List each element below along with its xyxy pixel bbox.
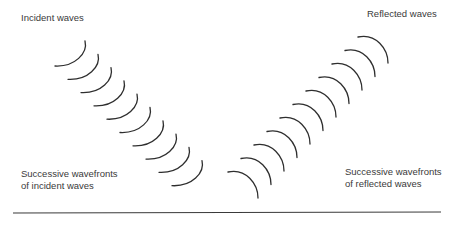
reflected-wavefront-arc [228, 171, 258, 198]
reflected-caption-line2: of reflected waves [345, 178, 442, 190]
incident-wavefront-arc [81, 68, 111, 93]
reflected-wavefront-arc [332, 63, 362, 90]
reflected-caption-line1: Successive wavefronts [345, 166, 442, 178]
incident-wavefront-arc [107, 94, 137, 119]
diagram-canvas [0, 0, 451, 226]
incident-wavefronts [55, 41, 202, 186]
incident-wavefront-arc [120, 108, 150, 133]
reflecting-surface-line [13, 212, 441, 213]
incident-wavefront-arc [146, 134, 176, 159]
reflected-wavefront-arc [254, 144, 284, 171]
incident-wavefront-arc [94, 81, 124, 106]
reflected-wavefront-arc [267, 131, 297, 158]
reflected-wavefront-arc [345, 50, 375, 77]
incident-wavefront-arc [133, 121, 163, 146]
reflected-wavefront-arc [358, 36, 388, 63]
reflected-wavefront-arc [241, 158, 271, 185]
reflected-caption: Successive wavefronts of reflected waves [345, 166, 442, 189]
incident-waves-label: Incident waves [21, 12, 84, 24]
incident-caption: Successive wavefronts of incident waves [21, 168, 118, 191]
reflected-wavefront-arc [319, 77, 349, 104]
reflected-wavefront-arc [306, 90, 336, 117]
reflected-wavefront-arc [293, 104, 323, 131]
incident-caption-line1: Successive wavefronts [21, 168, 118, 180]
incident-caption-line2: of incident waves [21, 180, 118, 192]
incident-wavefront-arc [159, 147, 189, 172]
incident-wavefront-arc [172, 161, 202, 186]
wave-reflection-diagram: Incident waves Reflected waves Successiv… [0, 0, 451, 226]
incident-wavefront-arc [55, 41, 85, 66]
reflected-waves-label: Reflected waves [367, 8, 437, 20]
incident-wavefront-arc [68, 54, 98, 79]
reflected-wavefront-arc [280, 117, 310, 144]
